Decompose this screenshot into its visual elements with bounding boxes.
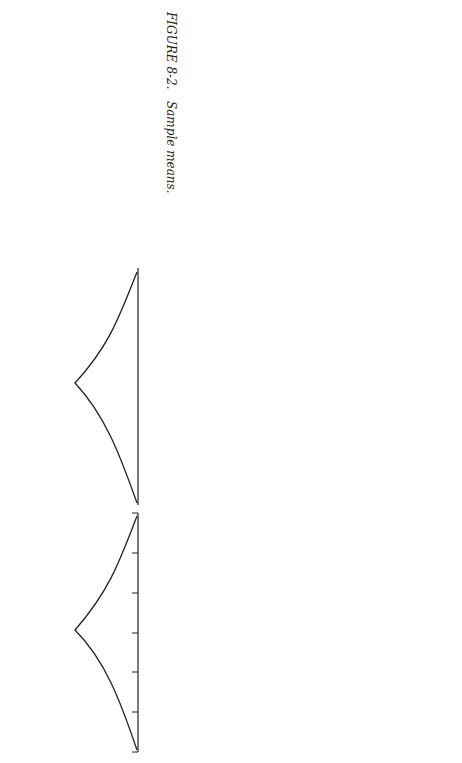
figure-8-2-caption: FIGURE 8-2. Sample means. [164, 12, 178, 194]
